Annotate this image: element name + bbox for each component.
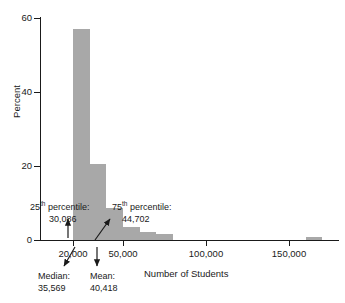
annotation-mean-value: 40,418: [90, 283, 118, 295]
annotation-median-value: 35,569: [38, 283, 70, 295]
annotation-mean: Mean: 40,418: [90, 271, 118, 294]
annotation-p75-value: 44,702: [122, 214, 171, 226]
annotation-p25-label: 25th percentile:: [30, 202, 89, 212]
annotation-median-label: Median:: [38, 271, 70, 281]
annotation-p25-value: 30,086: [49, 214, 89, 226]
annotation-p25: 25th percentile: 30,086: [30, 198, 89, 225]
annotation-p75-label: 75th percentile:: [112, 202, 171, 212]
annotation-mean-label: Mean:: [90, 271, 115, 281]
annotation-arrows: [0, 0, 345, 303]
annotation-median: Median: 35,569: [38, 271, 70, 294]
histogram-figure: Percent 60 40 20 0 20,000 50,000 100,000…: [0, 0, 345, 303]
annotation-p75: 75th percentile: 44,702: [112, 198, 171, 225]
x-axis-label: Number of Students: [144, 268, 229, 279]
